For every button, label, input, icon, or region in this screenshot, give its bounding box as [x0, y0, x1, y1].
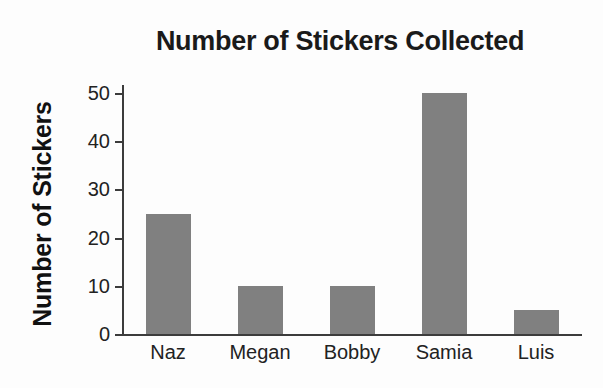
x-label-luis: Luis [490, 341, 582, 364]
plot-area: 01020304050 NazMeganBobbySamiaLuis [122, 85, 582, 335]
y-tick-0: 0 [115, 334, 123, 336]
bar-bobby [330, 286, 375, 334]
y-tick-label-0: 0 [76, 323, 110, 346]
y-tick-30: 30 [115, 189, 123, 191]
x-label-megan: Megan [214, 341, 306, 364]
y-tick-20: 20 [115, 238, 123, 240]
x-label-naz: Naz [122, 341, 214, 364]
x-axis-line [122, 334, 582, 336]
y-tick-label-40: 40 [76, 130, 110, 153]
y-tick-label-20: 20 [76, 227, 110, 250]
y-tick-40: 40 [115, 141, 123, 143]
bar-luis [514, 310, 559, 334]
y-axis-line [122, 85, 124, 335]
y-tick-label-10: 10 [76, 275, 110, 298]
bar-samia [422, 93, 467, 334]
chart-title: Number of Stickers Collected [90, 26, 590, 57]
bar-chart: Number of Stickers Collected Number of S… [0, 0, 603, 388]
bar-naz [146, 214, 191, 335]
x-label-samia: Samia [398, 341, 490, 364]
y-axis-title: Number of Stickers [28, 101, 57, 327]
y-tick-10: 10 [115, 286, 123, 288]
bar-megan [238, 286, 283, 334]
x-label-bobby: Bobby [306, 341, 398, 364]
y-tick-label-50: 50 [76, 82, 110, 105]
y-tick-label-30: 30 [76, 178, 110, 201]
y-tick-50: 50 [115, 93, 123, 95]
